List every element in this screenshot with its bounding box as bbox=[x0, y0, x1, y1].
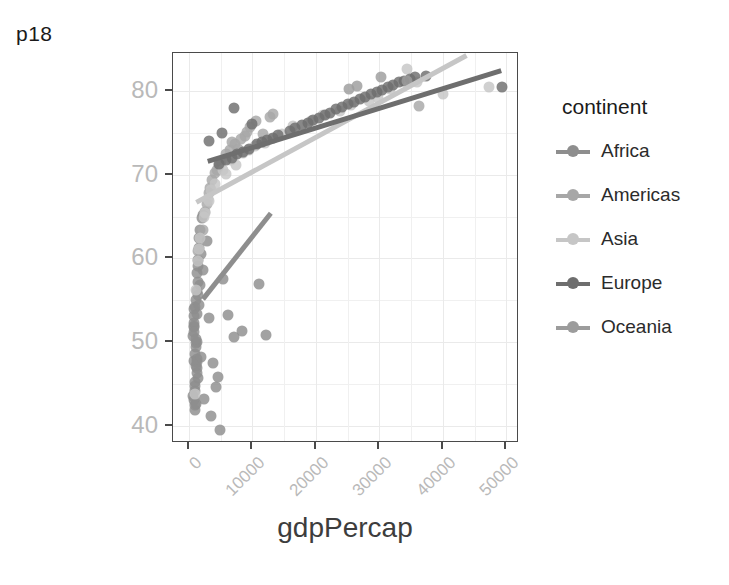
x-tick-mark bbox=[441, 442, 443, 449]
x-tick-mark bbox=[504, 442, 506, 449]
legend-key-icon bbox=[556, 273, 590, 293]
legend-key-dot bbox=[567, 233, 579, 245]
legend-key-dot bbox=[567, 145, 579, 157]
legend-key-icon bbox=[556, 141, 590, 161]
y-tick-label: 50 bbox=[131, 327, 158, 355]
y-tick-mark bbox=[165, 424, 172, 426]
legend-key-icon bbox=[556, 229, 590, 249]
legend-key-dot bbox=[567, 277, 579, 289]
y-tick-mark bbox=[165, 89, 172, 91]
x-tick-mark bbox=[314, 442, 316, 449]
legend-item-africa[interactable]: Africa bbox=[556, 139, 726, 162]
legend-item-asia[interactable]: Asia bbox=[556, 227, 726, 250]
legend-label: Americas bbox=[601, 184, 680, 206]
x-tick-label: 40000 bbox=[412, 453, 460, 501]
legend-item-americas[interactable]: Americas bbox=[556, 183, 726, 206]
legend-item-europe[interactable]: Europe bbox=[556, 271, 726, 294]
x-tick-label: 50000 bbox=[476, 453, 524, 501]
legend-key-icon bbox=[556, 185, 590, 205]
legend-items: AfricaAmericasAsiaEuropeOceania bbox=[556, 139, 726, 338]
x-tick-label: 10000 bbox=[222, 453, 270, 501]
plot-panel bbox=[172, 52, 518, 442]
x-tick-label: 30000 bbox=[349, 453, 397, 501]
legend-item-oceania[interactable]: Oceania bbox=[556, 315, 726, 338]
y-tick-label: 80 bbox=[131, 76, 158, 104]
legend: continent AfricaAmericasAsiaEuropeOceani… bbox=[556, 95, 726, 359]
y-tick-label: 70 bbox=[131, 160, 158, 188]
x-tick-label: 20000 bbox=[285, 453, 333, 501]
x-tick-mark bbox=[377, 442, 379, 449]
y-tick-mark bbox=[165, 340, 172, 342]
legend-key-dot bbox=[567, 189, 579, 201]
legend-key-icon bbox=[556, 317, 590, 337]
legend-label: Asia bbox=[601, 228, 638, 250]
trend-line bbox=[203, 213, 271, 299]
y-tick-label: 60 bbox=[131, 243, 158, 271]
x-tick-label: 0 bbox=[185, 453, 206, 474]
legend-label: Europe bbox=[601, 272, 662, 294]
trend-lines bbox=[173, 53, 517, 441]
x-axis-title: gdpPercap bbox=[172, 512, 518, 544]
trend-line bbox=[208, 71, 502, 162]
legend-label: Oceania bbox=[601, 316, 672, 338]
x-tick-mark bbox=[250, 442, 252, 449]
trend-line bbox=[196, 56, 466, 203]
x-tick-mark bbox=[187, 442, 189, 449]
page-title: p18 bbox=[16, 22, 53, 46]
y-tick-mark bbox=[165, 173, 172, 175]
legend-key-dot bbox=[567, 321, 579, 333]
legend-title: continent bbox=[556, 95, 726, 119]
y-tick-label: 40 bbox=[131, 411, 158, 439]
legend-label: Africa bbox=[601, 140, 650, 162]
y-tick-mark bbox=[165, 256, 172, 258]
chart-root: p18 4050607080 0100002000030000400005000… bbox=[0, 0, 729, 585]
